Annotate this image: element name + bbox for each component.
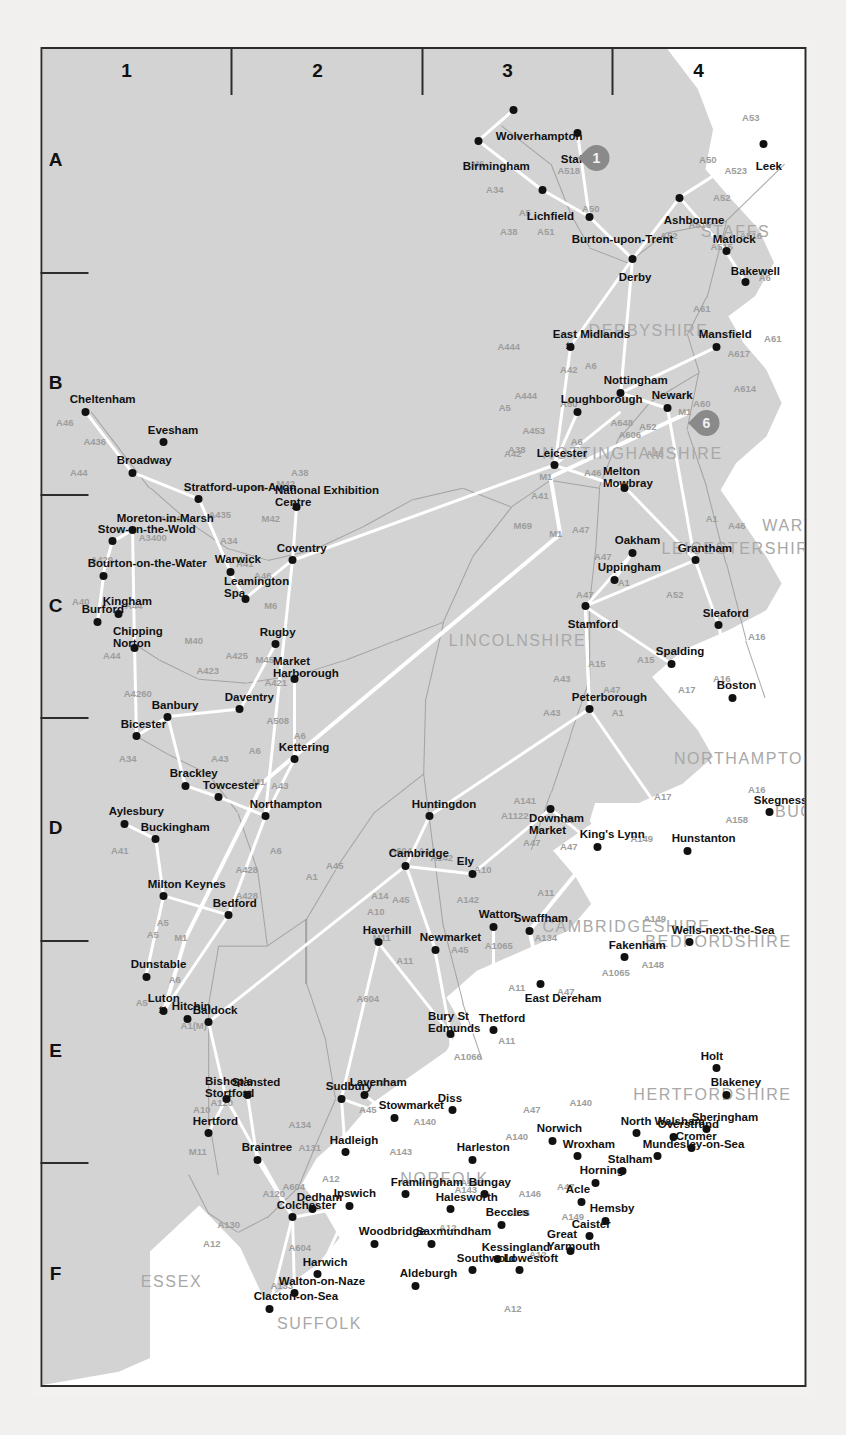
town-dot[interactable] — [722, 247, 730, 255]
town-dot[interactable] — [621, 953, 629, 961]
town-dot[interactable] — [498, 1220, 506, 1228]
town-dot[interactable] — [468, 1155, 476, 1163]
road-number-label: A6 — [168, 975, 180, 985]
town-dot[interactable] — [593, 842, 601, 850]
town-dot[interactable] — [183, 1014, 191, 1022]
town-dot[interactable] — [425, 812, 433, 820]
town-dot[interactable] — [205, 1129, 213, 1137]
town-dot[interactable] — [449, 1106, 457, 1114]
town-dot[interactable] — [412, 1281, 420, 1289]
town-dot[interactable] — [525, 926, 533, 934]
town-dot[interactable] — [371, 1239, 379, 1247]
town-dot[interactable] — [539, 186, 547, 194]
town-dot[interactable] — [447, 1205, 455, 1213]
town-dot[interactable] — [128, 525, 136, 533]
town-dot[interactable] — [291, 754, 299, 762]
town-dot[interactable] — [271, 640, 279, 648]
town-label: Spalding — [656, 646, 705, 658]
town-dot[interactable] — [152, 835, 160, 843]
town-dot[interactable] — [490, 922, 498, 930]
town-dot[interactable] — [337, 1094, 345, 1102]
town-dot[interactable] — [341, 1148, 349, 1156]
town-dot[interactable] — [427, 1239, 435, 1247]
town-dot[interactable] — [548, 1136, 556, 1144]
town-dot[interactable] — [722, 1090, 730, 1098]
town-dot[interactable] — [586, 212, 594, 220]
town-dot[interactable] — [99, 571, 107, 579]
town-dot[interactable] — [591, 1178, 599, 1186]
town-dot[interactable] — [715, 621, 723, 629]
town-label: King's Lynn — [580, 829, 645, 841]
town-dot[interactable] — [261, 812, 269, 820]
town-dot[interactable] — [402, 861, 410, 869]
town-dot[interactable] — [574, 407, 582, 415]
town-dot[interactable] — [691, 556, 699, 564]
town-dot[interactable] — [205, 1018, 213, 1026]
town-dot[interactable] — [468, 1266, 476, 1274]
town-dot[interactable] — [574, 1151, 582, 1159]
town-dot[interactable] — [742, 277, 750, 285]
town-dot[interactable] — [93, 617, 101, 625]
town-label: Broadway — [117, 455, 172, 467]
town-dot[interactable] — [214, 793, 222, 801]
town-dot[interactable] — [226, 567, 234, 575]
town-dot[interactable] — [402, 1190, 410, 1198]
road-number-label: A52 — [666, 590, 683, 600]
town-dot[interactable] — [683, 846, 691, 854]
town-dot[interactable] — [550, 461, 558, 469]
location-pin[interactable]: 1 — [576, 144, 610, 170]
town-dot[interactable] — [629, 254, 637, 262]
town-dot[interactable] — [195, 495, 203, 503]
town-dot[interactable] — [390, 1113, 398, 1121]
town-dot[interactable] — [586, 705, 594, 713]
town-dot[interactable] — [582, 602, 590, 610]
town-dot[interactable] — [578, 1197, 586, 1205]
town-dot[interactable] — [654, 1151, 662, 1159]
town-dot[interactable] — [629, 548, 637, 556]
town-dot[interactable] — [431, 945, 439, 953]
road-number-label: A11 — [397, 956, 414, 966]
town-label: Market Harborough — [273, 655, 339, 678]
location-pin[interactable]: 6 — [685, 410, 719, 436]
town-dot[interactable] — [713, 342, 721, 350]
town-dot[interactable] — [236, 705, 244, 713]
town-label: Loughborough — [560, 394, 642, 406]
town-dot[interactable] — [537, 980, 545, 988]
town-dot[interactable] — [181, 781, 189, 789]
town-dot[interactable] — [474, 136, 482, 144]
town-dot[interactable] — [611, 575, 619, 583]
town-dot[interactable] — [160, 438, 168, 446]
town-dot[interactable] — [713, 1064, 721, 1072]
road-number-label: A6 — [270, 845, 282, 855]
town-label: Stow-on-the-Wold — [97, 524, 195, 536]
road-number-label: A5 — [499, 403, 511, 413]
town-dot[interactable] — [632, 1129, 640, 1137]
road-number-label: A43 — [553, 674, 570, 684]
town-dot[interactable] — [109, 537, 117, 545]
town-dot[interactable] — [265, 1304, 273, 1312]
town-dot[interactable] — [253, 1155, 261, 1163]
town-dot[interactable] — [82, 407, 90, 415]
town-dot[interactable] — [685, 938, 693, 946]
town-dot[interactable] — [468, 869, 476, 877]
town-dot[interactable] — [759, 140, 767, 148]
town-dot[interactable] — [664, 403, 672, 411]
town-dot[interactable] — [490, 1026, 498, 1034]
town-dot[interactable] — [224, 911, 232, 919]
road-number-label: A1066 — [454, 1051, 482, 1061]
town-dot[interactable] — [668, 659, 676, 667]
town-dot[interactable] — [121, 819, 129, 827]
town-dot[interactable] — [289, 1213, 297, 1221]
town-dot[interactable] — [515, 1266, 523, 1274]
town-dot[interactable] — [509, 106, 517, 114]
town-dot[interactable] — [675, 193, 683, 201]
town-dot[interactable] — [132, 732, 140, 740]
town-dot[interactable] — [289, 556, 297, 564]
town-dot[interactable] — [142, 972, 150, 980]
town-dot[interactable] — [128, 468, 136, 476]
town-dot[interactable] — [160, 892, 168, 900]
town-dot[interactable] — [375, 938, 383, 946]
town-dot[interactable] — [765, 808, 773, 816]
town-dot[interactable] — [728, 693, 736, 701]
town-dot[interactable] — [345, 1201, 353, 1209]
